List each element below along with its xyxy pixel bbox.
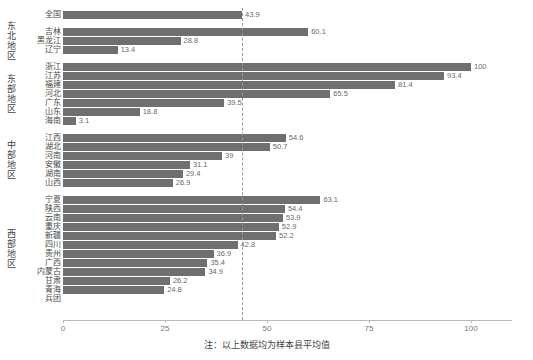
bar-plot-area: 52.9 <box>63 222 533 231</box>
bar-plot-area: 63.1 <box>63 195 533 204</box>
bar-plot-area: 54.6 <box>63 133 533 142</box>
bar <box>63 232 276 240</box>
bar-category-label: 全国 <box>22 11 61 19</box>
bar-plot-area: 26.9 <box>63 178 533 187</box>
bar-category-label: 内蒙古 <box>22 268 61 276</box>
bar <box>63 90 330 98</box>
bar-value-label: 52.9 <box>282 223 297 231</box>
x-axis-tick-label: 50 <box>263 325 272 333</box>
bar-plot-area: 18.8 <box>63 107 533 116</box>
bar-category-label: 甘肃 <box>22 277 61 285</box>
table-row: 云南53.9 <box>22 213 533 222</box>
bar-plot-area: 39.5 <box>63 98 533 107</box>
bar-plot-area: 42.8 <box>63 240 533 249</box>
x-axis-tick-label: 0 <box>61 325 65 333</box>
bar-category-label: 重庆 <box>22 223 61 231</box>
bar <box>63 143 270 151</box>
bar-value-label: 26.9 <box>176 179 191 187</box>
table-row: 吉林60.1 <box>22 27 533 36</box>
bar-category-label: 兵团 <box>22 295 61 303</box>
bar-value-label: 39.5 <box>227 99 242 107</box>
table-row: 江苏93.4 <box>22 71 533 80</box>
x-axis-tick <box>471 320 472 323</box>
x-axis-tick <box>369 320 370 323</box>
table-row: 兵团 <box>22 294 533 303</box>
x-axis-tick <box>63 320 64 323</box>
table-row: 青海24.8 <box>22 285 533 294</box>
bar-plot-area: 93.4 <box>63 71 533 80</box>
table-row: 江西54.6 <box>22 133 533 142</box>
region-label-1: 东北地区 <box>0 27 22 54</box>
bar <box>63 117 76 125</box>
bar <box>63 108 140 116</box>
table-row: 贵州36.9 <box>22 249 533 258</box>
bar-chart: 东北地区东部地区中部地区西部地区 全国43.9吉林60.1黑龙江28.8辽宁13… <box>0 0 533 360</box>
x-axis-tick-label: 75 <box>365 325 374 333</box>
bar-category-label: 宁夏 <box>22 196 61 204</box>
table-row: 全国43.9 <box>22 10 533 19</box>
bar-value-label: 28.8 <box>184 37 199 45</box>
bar-plot-area: 81.4 <box>63 80 533 89</box>
bar <box>63 37 181 45</box>
bar-plot-area: 24.8 <box>63 285 533 294</box>
bar <box>63 170 183 178</box>
bar-category-label: 湖南 <box>22 170 61 178</box>
bar-category-label: 四川 <box>22 241 61 249</box>
region-label-4: 西部地区 <box>0 195 22 303</box>
bar-category-label: 海南 <box>22 117 61 125</box>
table-row: 甘肃26.2 <box>22 276 533 285</box>
table-row: 河南39 <box>22 151 533 160</box>
bar-plot-area: 3.1 <box>63 116 533 125</box>
region-label-3: 中部地区 <box>0 133 22 187</box>
bar <box>63 259 207 267</box>
bar-category-label: 云南 <box>22 214 61 222</box>
bar-value-label: 18.8 <box>143 108 158 116</box>
bar-value-label: 50.7 <box>273 143 288 151</box>
table-row: 广西35.4 <box>22 258 533 267</box>
bar-value-label: 93.4 <box>447 72 462 80</box>
bar-value-label: 36.9 <box>217 250 232 258</box>
bar-value-label: 34.9 <box>208 268 223 276</box>
bar-plot-area: 34.9 <box>63 267 533 276</box>
bar-plot-area: 52.2 <box>63 231 533 240</box>
bar-category-label: 吉林 <box>22 28 61 36</box>
table-row: 山西26.9 <box>22 178 533 187</box>
bar-plot-area: 54.4 <box>63 204 533 213</box>
bar-value-label: 3.1 <box>79 117 89 125</box>
bar <box>63 214 283 222</box>
bar-value-label: 54.4 <box>288 205 303 213</box>
table-row: 新疆52.2 <box>22 231 533 240</box>
bar-value-label: 39 <box>225 152 233 160</box>
x-axis-line <box>63 320 512 321</box>
bar-category-label: 贵州 <box>22 250 61 258</box>
table-row: 海南3.1 <box>22 116 533 125</box>
bar-category-label: 山西 <box>22 179 61 187</box>
bar-value-label: 29.4 <box>186 170 201 178</box>
table-row: 宁夏63.1 <box>22 195 533 204</box>
bar <box>63 250 214 258</box>
bar-plot-area: 60.1 <box>63 27 533 36</box>
bar-category-label: 浙江 <box>22 63 61 71</box>
bar-plot-area: 31.1 <box>63 160 533 169</box>
bar-plot-area: 43.9 <box>63 10 533 19</box>
table-row: 河北65.5 <box>22 89 533 98</box>
bar-value-label: 26.2 <box>173 277 188 285</box>
x-axis-tick <box>165 320 166 323</box>
bar <box>63 205 285 213</box>
bar <box>63 72 444 80</box>
bar-plot-area: 13.4 <box>63 45 533 54</box>
bar-value-label: 100 <box>474 63 487 71</box>
bar <box>63 223 279 231</box>
bar <box>63 277 170 285</box>
bar-value-label: 13.4 <box>121 46 136 54</box>
bar-value-label: 63.1 <box>323 196 338 204</box>
bar-value-label: 43.9 <box>245 11 260 19</box>
bar-value-label: 31.1 <box>193 161 208 169</box>
table-row: 黑龙江28.8 <box>22 36 533 45</box>
table-row: 湖北50.7 <box>22 142 533 151</box>
bar-category-label: 辽宁 <box>22 46 61 54</box>
bar <box>63 134 286 142</box>
table-row: 辽宁13.4 <box>22 45 533 54</box>
bar <box>63 179 173 187</box>
table-row: 陕西54.4 <box>22 204 533 213</box>
